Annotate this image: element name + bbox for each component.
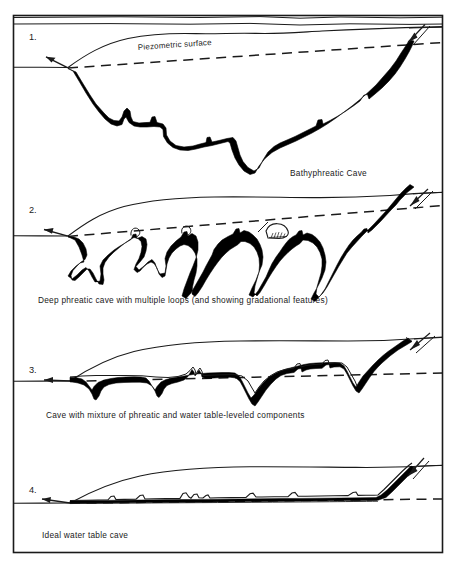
spring-resurgence-arrow <box>410 333 435 353</box>
panel-4-number: 4. <box>29 485 37 495</box>
sink-input-arrow <box>46 57 68 68</box>
spring-resurgence-arrow <box>410 189 433 209</box>
sink-input-arrow <box>44 377 70 383</box>
sink-input-arrow <box>42 497 70 503</box>
panel-2-deep-phreatic-multiple-loops: 2. Deep phreatic cave with multiple loop… <box>13 185 443 306</box>
figure-frame <box>14 16 443 553</box>
panel-2-caption: Deep phreatic cave with multiple loops (… <box>38 295 328 305</box>
panel-3-caption: Cave with mixture of phreatic and water … <box>46 410 305 420</box>
panel-1-bathyphreatic-cave: Piezometric surface 1. Bathyphreatic Cav… <box>13 17 443 178</box>
panel-4-ideal-water-table-cave: 4. Ideal water table cave <box>13 458 443 540</box>
panel-3-mixed-phreatic-water-table-cave: 3. Cave with mixture of phreatic and wat… <box>13 333 443 420</box>
deep-looping-conduit <box>68 40 414 175</box>
panel-1-caption: Bathyphreatic Cave <box>290 168 367 178</box>
multiple-loop-conduit <box>68 185 414 302</box>
piezometric-surface-label: Piezometric surface <box>138 38 213 52</box>
conduit-ceiling-outline <box>70 463 412 503</box>
ground-surface-line <box>13 17 443 68</box>
piezometric-surface-dashed-line <box>68 43 443 69</box>
panel-2-number: 2. <box>29 205 37 215</box>
ground-surface-line <box>13 192 443 236</box>
cave-development-figure: Piezometric surface 1. Bathyphreatic Cav… <box>0 0 460 565</box>
panel-1-number: 1. <box>29 32 37 42</box>
air-filled-chamber-detail <box>131 222 288 239</box>
mixed-profile-conduit <box>70 338 412 406</box>
sink-input-arrow <box>44 228 68 236</box>
panel-4-caption: Ideal water table cave <box>42 530 128 540</box>
panel-3-number: 3. <box>29 365 37 375</box>
